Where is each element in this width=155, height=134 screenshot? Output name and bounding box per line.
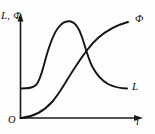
curve-label-l: L <box>132 81 138 92</box>
y-axis <box>18 13 24 118</box>
origin-label: O <box>8 115 16 126</box>
curve-label-phi: Φ <box>135 13 144 24</box>
plot-canvas <box>0 0 155 134</box>
x-axis <box>20 115 143 121</box>
x-axis-label: i <box>136 116 139 127</box>
curve-l <box>21 21 127 88</box>
curve-phi <box>21 22 128 118</box>
chart-figure: L, Φ i O Φ L <box>0 0 155 134</box>
y-axis-label: L, Φ <box>1 10 22 21</box>
